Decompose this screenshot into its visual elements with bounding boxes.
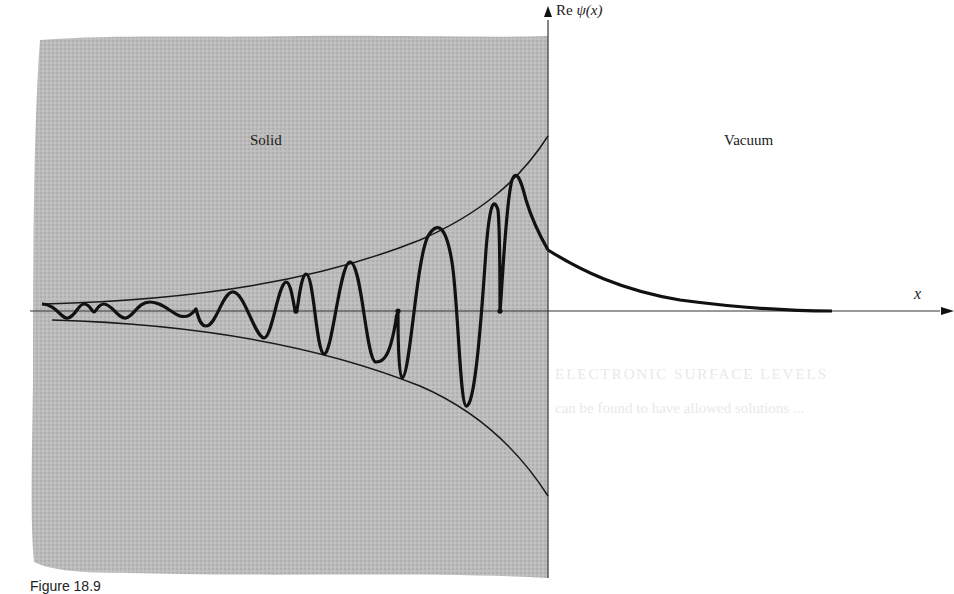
node-dot: [395, 308, 400, 313]
node-dot: [293, 308, 298, 313]
node-dot: [497, 308, 502, 313]
vacuum-label: Vacuum: [724, 132, 773, 149]
figure-caption: Figure 18.9: [30, 578, 101, 594]
y-axis-label-prefix: Re: [556, 2, 576, 18]
x-axis-label: x: [914, 285, 921, 303]
x-axis-arrowhead-icon: [941, 307, 954, 315]
background-text-line: can be found to have allowed solutions .…: [555, 400, 804, 417]
y-axis-label: Re ψ(x): [556, 2, 602, 19]
wavefunction-vacuum: [548, 250, 832, 311]
background-text-line: ELECTRONIC SURFACE LEVELS: [555, 366, 828, 383]
y-axis-label-function: ψ(x): [576, 2, 602, 18]
y-axis-arrowhead-icon: [544, 6, 552, 17]
solid-label: Solid: [250, 132, 282, 149]
